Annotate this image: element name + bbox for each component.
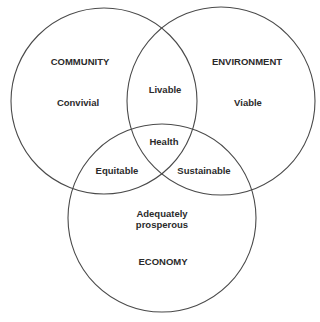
environment-label: ENVIRONMENT <box>212 56 282 67</box>
economy-label: ECONOMY <box>138 256 188 267</box>
economy-quality-line2: prosperous <box>136 219 188 230</box>
venn-diagram: COMMUNITY Convivial ENVIRONMENT Viable L… <box>0 0 320 322</box>
community-label: COMMUNITY <box>51 56 110 67</box>
economy-quality-line1: Adequately <box>136 208 188 219</box>
health-label: Health <box>149 136 178 147</box>
community-quality: Convivial <box>57 97 99 108</box>
environment-quality: Viable <box>234 97 262 108</box>
equitable-label: Equitable <box>96 165 139 176</box>
livable-label: Livable <box>149 84 182 95</box>
sustainable-label: Sustainable <box>177 165 230 176</box>
